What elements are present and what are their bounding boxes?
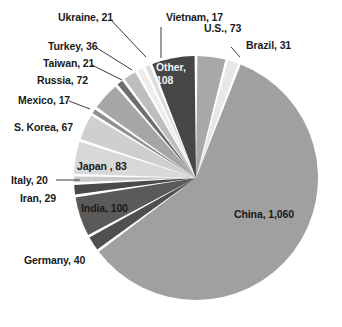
leader-line-taiwan	[92, 65, 122, 80]
leader-line-turkey	[97, 48, 132, 70]
slice-label-us: U.S., 73	[204, 22, 241, 34]
leader-line-mexico	[69, 101, 90, 109]
slice-label-other-line1: Other,	[156, 61, 186, 73]
slice-label-germany: Germany, 40	[24, 254, 85, 266]
leader-line-ukraine	[110, 19, 146, 57]
slice-label-skorea: S. Korea, 67	[14, 121, 73, 133]
slice-label-japan: Japan , 83	[77, 160, 127, 172]
slice-label-turkey: Turkey, 36	[48, 40, 97, 52]
slice-label-italy: Italy, 20	[11, 174, 48, 186]
pie-chart: Ukraine, 21 Vietnam, 17 U.S., 73 Brazil,…	[0, 0, 342, 327]
slice-label-india: India, 100	[81, 202, 128, 214]
slice-label-mexico: Mexico, 17	[18, 94, 70, 106]
slice-label-china: China, 1,060	[234, 208, 294, 220]
slice-label-taiwan: Taiwan, 21	[43, 57, 94, 69]
slice-label-other-line2: 108	[156, 74, 173, 86]
slice-label-iran: Iran, 29	[20, 192, 56, 204]
slice-label-brazil: Brazil, 31	[246, 39, 291, 51]
leader-line-brazil	[231, 47, 240, 57]
slice-label-russia: Russia, 72	[37, 74, 88, 86]
slice-label-ukraine: Ukraine, 21	[58, 11, 113, 23]
pie-slice-group	[74, 56, 318, 300]
slice-label-other: Other, 108	[156, 61, 190, 87]
